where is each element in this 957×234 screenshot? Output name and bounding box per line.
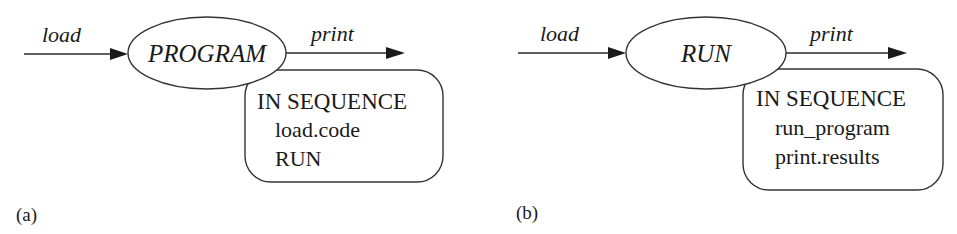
panel-b: load RUN print IN SEQUENCE run_program p… xyxy=(516,17,943,224)
print-label-b: print xyxy=(808,21,854,46)
sequence-heading-b: IN SEQUENCE xyxy=(756,86,906,111)
print-output-arrow-b xyxy=(786,47,907,59)
sequence-step-b-1: run_program xyxy=(775,115,890,140)
arrowhead-icon xyxy=(110,48,128,60)
panel-a: load PROGRAM print IN SEQUENCE load.code… xyxy=(16,17,443,226)
arrowhead-icon xyxy=(888,47,907,59)
load-label-b: load xyxy=(540,21,580,46)
load-input-arrow-b xyxy=(518,47,626,59)
sequence-heading-a: IN SEQUENCE xyxy=(257,89,407,114)
sequence-step-b-2: print.results xyxy=(775,144,880,169)
sequence-step-a-2: RUN xyxy=(275,146,322,171)
arrowhead-icon xyxy=(386,47,405,59)
process-label-b: RUN xyxy=(680,40,732,67)
load-label-a: load xyxy=(42,22,82,47)
caption-a: (a) xyxy=(16,204,37,226)
arrowhead-icon xyxy=(608,47,626,59)
process-label-a: PROGRAM xyxy=(147,40,267,67)
print-label-a: print xyxy=(309,21,355,46)
figure-canvas: load PROGRAM print IN SEQUENCE load.code… xyxy=(0,0,957,234)
load-input-arrow-a xyxy=(24,48,128,60)
print-output-arrow-a xyxy=(286,47,405,59)
caption-b: (b) xyxy=(516,202,538,224)
sequence-step-a-1: load.code xyxy=(275,117,360,142)
